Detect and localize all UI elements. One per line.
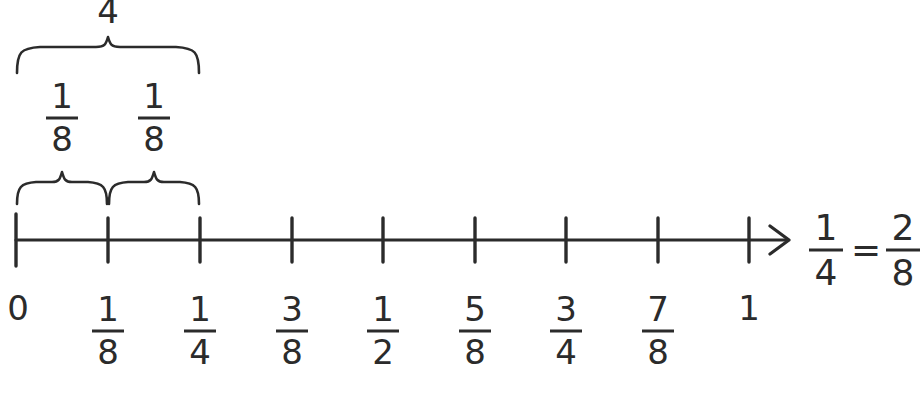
lower-brace-right [109, 172, 199, 204]
tick-label-8-whole: 1 [738, 288, 760, 328]
tick-label-2: 1 4 [184, 289, 216, 372]
lower-brace-left [17, 172, 107, 204]
tick-label-6-numerator: 3 [555, 289, 577, 329]
tick-label-0: 0 [7, 288, 29, 328]
lower-brace-left-path [17, 172, 107, 204]
tick-label-6-denominator: 4 [555, 332, 577, 372]
tick-label-1: 1 8 [92, 289, 124, 372]
tick-label-5: 5 8 [459, 289, 491, 372]
tick-label-4: 1 2 [367, 289, 399, 372]
upper-brace-path [17, 37, 199, 73]
tick-label-1-numerator: 1 [97, 289, 119, 329]
tick-label-7-numerator: 7 [647, 289, 669, 329]
equation-right-numerator: 2 [892, 207, 915, 248]
eighth-label-left: 1 8 [46, 76, 78, 159]
tick-label-4-numerator: 1 [372, 289, 394, 329]
equivalence-equation: 1 4 = 2 8 [809, 207, 920, 293]
eighth-label-right-denominator: 8 [143, 119, 165, 159]
tick-label-1-denominator: 8 [97, 332, 119, 372]
eighth-label-right: 1 8 [138, 76, 170, 159]
tick-label-5-numerator: 5 [464, 289, 486, 329]
tick-label-0-whole: 0 [7, 288, 29, 328]
upper-brace-label: 1 4 [92, 0, 124, 31]
tick-label-3-denominator: 8 [281, 332, 303, 372]
tick-label-2-numerator: 1 [189, 289, 211, 329]
tick-label-8: 1 [738, 288, 760, 328]
eighth-label-left-numerator: 1 [51, 76, 73, 116]
number-line-axis [16, 226, 789, 254]
tick-label-7: 7 8 [642, 289, 674, 372]
upper-brace [17, 37, 199, 73]
tick-label-3-numerator: 3 [281, 289, 303, 329]
eighth-label-right-numerator: 1 [143, 76, 165, 116]
equation-equals-sign: = [851, 229, 881, 270]
tick-label-4-denominator: 2 [372, 332, 394, 372]
equation-left-numerator: 1 [815, 207, 838, 248]
tick-label-3: 3 8 [276, 289, 308, 372]
lower-brace-right-path [109, 172, 199, 204]
upper-brace-label-denominator: 4 [97, 0, 119, 31]
eighth-label-left-denominator: 8 [51, 119, 73, 159]
equation-left-denominator: 4 [815, 252, 838, 293]
tick-label-5-denominator: 8 [464, 332, 486, 372]
equation-right-denominator: 8 [892, 252, 915, 293]
number-line-figure: 1 4 1 8 1 8 [0, 0, 920, 396]
tick-label-7-denominator: 8 [647, 332, 669, 372]
tick-label-6: 3 4 [550, 289, 582, 372]
tick-label-2-denominator: 4 [189, 332, 211, 372]
number-line-diagram: 1 4 1 8 1 8 [0, 0, 920, 396]
